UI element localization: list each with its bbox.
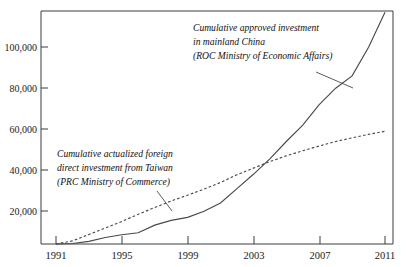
annotation-actualized-line-1: Cumulative actualized foreign bbox=[57, 148, 173, 159]
chart-canvas: 100,000 80,000 60,000 40,000 20,000 1991… bbox=[0, 0, 406, 267]
annotation-actualized-line-3: (PRC Ministry of Commerce) bbox=[57, 176, 170, 188]
annotation-approved-line-1: Cumulative approved investment bbox=[193, 22, 319, 33]
x-tick-label-1991: 1991 bbox=[46, 250, 67, 261]
x-tick-label-2011: 2011 bbox=[375, 250, 396, 261]
x-tick-label-2003: 2003 bbox=[244, 250, 265, 261]
x-tick-label-1999: 1999 bbox=[178, 250, 199, 261]
y-tick-label-20000: 20,000 bbox=[10, 206, 38, 217]
investment-line-chart: 100,000 80,000 60,000 40,000 20,000 1991… bbox=[0, 0, 406, 267]
y-tick-label-80000: 80,000 bbox=[10, 83, 38, 94]
y-tick-label-100000: 100,000 bbox=[5, 42, 38, 53]
x-tick-label-2007: 2007 bbox=[310, 250, 331, 261]
y-tick-label-40000: 40,000 bbox=[10, 165, 38, 176]
y-tick-label-60000: 60,000 bbox=[10, 124, 38, 135]
annotation-approved-line-2: in mainland China bbox=[193, 36, 265, 47]
x-tick-label-1995: 1995 bbox=[112, 250, 133, 261]
annotation-approved-line-3: (ROC Ministry of Economic Affairs) bbox=[193, 50, 332, 62]
annotation-actualized-line-2: direct investment from Taiwan bbox=[57, 162, 173, 173]
